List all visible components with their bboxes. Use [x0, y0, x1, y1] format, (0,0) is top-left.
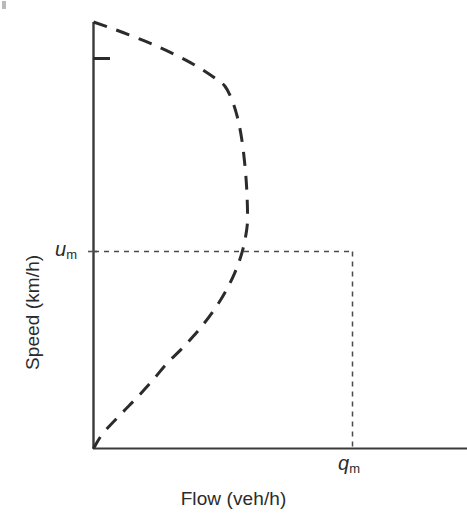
x-tick-label-qm: qm — [338, 452, 360, 476]
um-subscript: m — [66, 247, 77, 262]
y-axis-title: Speed (km/h) — [22, 70, 44, 370]
y-tick-label-um: um — [55, 238, 77, 262]
um-symbol: u — [55, 238, 66, 260]
plot-canvas — [0, 0, 467, 531]
speed-flow-figure: Speed (km/h) Flow (veh/h) um qm — [0, 0, 467, 531]
x-axis-title: Flow (veh/h) — [0, 488, 467, 510]
speed-flow-curve — [94, 22, 248, 449]
qm-subscript: m — [349, 461, 360, 476]
qm-symbol: q — [338, 452, 349, 474]
